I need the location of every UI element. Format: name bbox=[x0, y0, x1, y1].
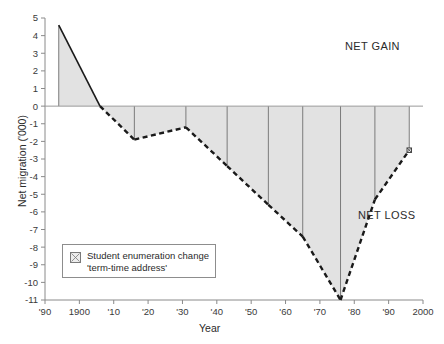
x-tick-label: '90 bbox=[382, 306, 394, 317]
y-tick-label: -1 bbox=[30, 118, 38, 129]
y-tick-label: -9 bbox=[30, 259, 38, 270]
chart-canvas: 543210-1-2-3-4-5-6-7-8-9-10-11'901900'10… bbox=[0, 0, 444, 344]
migration-chart: 543210-1-2-3-4-5-6-7-8-9-10-11'901900'10… bbox=[0, 0, 444, 344]
area-fill bbox=[59, 25, 410, 300]
x-tick-label: '90 bbox=[39, 306, 51, 317]
y-tick-label: -7 bbox=[30, 224, 38, 235]
x-tick-label: '60 bbox=[279, 306, 291, 317]
student-enumeration-marker bbox=[407, 148, 412, 153]
x-tick-label: '40 bbox=[211, 306, 223, 317]
y-tick-label: -10 bbox=[24, 277, 38, 288]
x-tick-label: 1900 bbox=[69, 306, 90, 317]
x-tick-label: '80 bbox=[348, 306, 360, 317]
x-tick-label: '70 bbox=[314, 306, 326, 317]
y-tick-label: -6 bbox=[30, 206, 38, 217]
y-tick-label: 0 bbox=[33, 101, 38, 112]
y-tick-label: -11 bbox=[25, 294, 38, 305]
x-tick-label: '50 bbox=[245, 306, 257, 317]
x-tick-label: '10 bbox=[108, 306, 120, 317]
y-tick-label: -5 bbox=[30, 189, 38, 200]
y-tick-label: -8 bbox=[30, 242, 38, 253]
y-tick-label: 1 bbox=[33, 83, 38, 94]
y-tick-label: 5 bbox=[33, 12, 38, 23]
x-tick-label: '30 bbox=[176, 306, 188, 317]
data-markers bbox=[407, 148, 412, 153]
x-tick-label: 2000 bbox=[412, 306, 433, 317]
y-tick-label: 3 bbox=[33, 48, 38, 59]
y-tick-label: -4 bbox=[30, 171, 38, 182]
y-tick-label: -2 bbox=[30, 136, 38, 147]
y-tick-label: 4 bbox=[33, 30, 38, 41]
y-tick-label: -3 bbox=[30, 153, 38, 164]
y-tick-label: 2 bbox=[33, 65, 38, 76]
x-tick-label: '20 bbox=[142, 306, 154, 317]
